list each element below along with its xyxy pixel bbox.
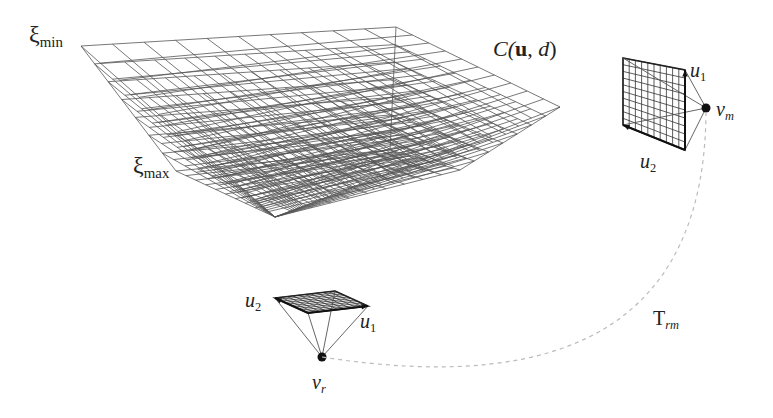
transform-label: Trm [653, 308, 679, 332]
reference-image-plane [275, 291, 368, 362]
ref-u1-label: u1 [360, 311, 376, 335]
match-u2-label: u2 [640, 151, 656, 175]
figure-svg [0, 0, 773, 418]
cost-volume-grid [81, 27, 560, 217]
match-u1-label: u1 [690, 60, 706, 84]
figure-canvas: ξmin ξmax C(u, d) u1 vm u2 u2 u1 vr Trm [0, 0, 773, 418]
cost-volume-label: C(u, d) [493, 38, 557, 60]
axis-arrow-icon [623, 125, 630, 130]
matching-camera-label: vm [716, 99, 734, 123]
reference-camera-label: vr [312, 372, 326, 396]
xi-max-label: ξmax [133, 153, 169, 181]
camera-center-dot [702, 104, 711, 113]
ref-u2-label: u2 [245, 290, 261, 314]
xi-min-label: ξmin [29, 22, 63, 50]
